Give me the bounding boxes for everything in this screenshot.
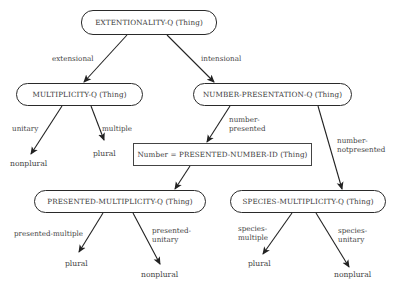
edge-label-multiple: multiple xyxy=(102,124,132,133)
edge-label-number-notpresented-line2: notpresented xyxy=(337,145,385,154)
node-extentionality-q: EXTENTIONALITY-Q (Thing) xyxy=(81,10,217,35)
edge-label-presented-unitary-line1: presented- xyxy=(152,226,191,235)
extentionality-decision-tree: EXTENTIONALITY-Q (Thing) MULTIPLICITY-Q … xyxy=(0,0,398,288)
edge-label-intensional: intensional xyxy=(201,54,241,63)
edge-label-species-multiple-line1: species- xyxy=(238,224,267,233)
edge-label-number-presented-line2: presented xyxy=(229,124,266,133)
node-presented-number-id: Number = PRESENTED-NUMBER-ID (Thing) xyxy=(133,143,312,166)
leaf-multiplicity-nonplural: nonplural xyxy=(10,159,47,168)
leaf-species-nonplural: nonplural xyxy=(334,270,371,279)
edge-label-unitary: unitary xyxy=(12,124,38,133)
edge-label-species-unitary-line2: unitary xyxy=(338,235,364,244)
edge-multiple xyxy=(91,106,104,140)
leaf-species-plural: plural xyxy=(248,259,271,268)
edge-label-number-notpresented-line1: number- xyxy=(337,136,368,145)
node-species-multiplicity-q: SPECIES-MULTIPLICITY-Q (Thing) xyxy=(230,190,386,213)
edge-number-presented xyxy=(207,106,230,142)
node-number-presentation-q: NUMBER-PRESENTATION-Q (Thing) xyxy=(193,83,352,106)
node-multiplicity-q: MULTIPLICITY-Q (Thing) xyxy=(16,83,143,106)
edge-label-presented-unitary-line2: unitary xyxy=(152,235,178,244)
edge-label-species-multiple-line2: multiple xyxy=(238,233,268,242)
edge-label-presented-multiple: presented-multiple xyxy=(14,229,83,238)
leaf-presented-plural: plural xyxy=(65,259,88,268)
node-presented-multiplicity-q: PRESENTED-MULTIPLICITY-Q (Thing) xyxy=(34,190,206,213)
edge-label-species-unitary-line1: species- xyxy=(338,226,367,235)
edge-label-extensional: extensional xyxy=(52,54,94,63)
leaf-multiplicity-plural: plural xyxy=(93,149,116,158)
edge-box-to-presented xyxy=(175,166,190,189)
edge-label-number-presented-line1: number- xyxy=(229,115,260,124)
leaf-presented-nonplural: nonplural xyxy=(141,270,178,279)
